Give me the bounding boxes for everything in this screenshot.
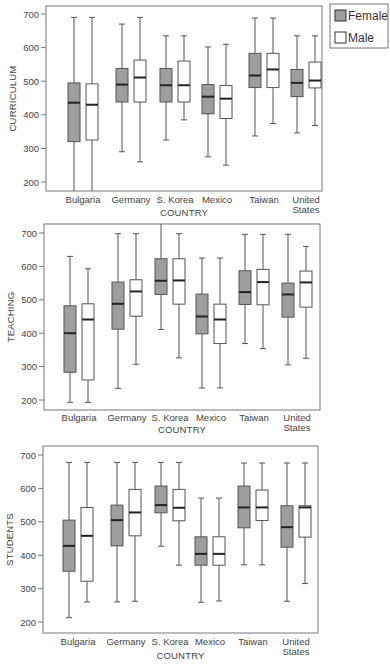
box-male	[213, 498, 225, 601]
y-tick-label: 700	[23, 9, 39, 20]
box-male	[173, 462, 185, 565]
iqr-box	[68, 83, 80, 142]
box-male	[81, 462, 93, 602]
x-category-label: Mexico	[202, 194, 232, 205]
x-category-label: Mexico	[196, 412, 226, 423]
x-category-label: Bulgaria	[61, 636, 97, 647]
box-male	[220, 44, 232, 165]
legend-label-female: Female	[348, 9, 388, 23]
box-male	[178, 36, 190, 120]
plot-area	[64, 223, 312, 402]
box-plot-figure: 200300400500600700CURRICULUMCOUNTRYBulga…	[0, 0, 390, 672]
panel-students: 200300400500600700STUDENTSCOUNTRYBulgari…	[4, 446, 318, 661]
plot-area	[68, 17, 321, 192]
iqr-box	[173, 259, 185, 304]
box-female	[155, 462, 167, 546]
x-category-label: S. Korea	[152, 636, 190, 647]
box-male	[129, 462, 141, 601]
box-male	[134, 17, 146, 161]
iqr-box	[256, 490, 268, 520]
iqr-box	[282, 283, 294, 317]
iqr-box	[214, 304, 226, 343]
box-female	[195, 498, 207, 602]
iqr-box	[155, 486, 167, 513]
x-category-label: States	[293, 204, 320, 215]
legend-swatch-male	[335, 32, 346, 43]
iqr-box	[299, 506, 311, 537]
y-tick-label: 200	[23, 177, 39, 188]
iqr-box	[249, 53, 261, 87]
box-male	[214, 258, 226, 388]
x-category-label: Taiwan	[238, 636, 268, 647]
box-female	[111, 462, 123, 602]
y-tick-label: 300	[20, 583, 36, 594]
x-axis-title: COUNTRY	[158, 424, 207, 435]
box-female	[249, 18, 261, 136]
box-female	[116, 24, 128, 152]
y-tick-label: 300	[21, 361, 37, 372]
legend: Female Male	[330, 4, 388, 48]
y-tick-label: 500	[20, 516, 36, 527]
y-tick-label: 400	[23, 109, 39, 120]
y-axis-title: CURRICULUM	[7, 66, 18, 132]
iqr-box	[202, 85, 214, 114]
x-category-label: States	[284, 422, 311, 433]
y-tick-label: 600	[23, 42, 39, 53]
box-male	[86, 17, 98, 192]
box-female	[64, 256, 76, 402]
y-tick-label: 400	[20, 550, 36, 561]
legend-label-male: Male	[348, 31, 374, 45]
box-male	[82, 269, 94, 403]
box-female	[282, 234, 294, 365]
iqr-box	[300, 271, 312, 307]
x-axis-title: COUNTRY	[160, 207, 209, 218]
x-axis-title: COUNTRY	[156, 650, 205, 661]
y-axis-title: STUDENTS	[4, 513, 15, 566]
iqr-box	[239, 271, 251, 305]
y-tick-label: 700	[21, 228, 37, 239]
box-female	[63, 462, 75, 617]
y-tick-label: 600	[21, 261, 37, 272]
box-male	[267, 18, 279, 124]
x-category-label: Taiwan	[249, 194, 279, 205]
x-category-label: Taiwan	[239, 412, 269, 423]
box-male	[309, 36, 321, 126]
panel-curriculum: 200300400500600700CURRICULUMCOUNTRYBulga…	[7, 6, 322, 218]
x-category-label: S. Korea	[152, 412, 190, 423]
iqr-box	[220, 86, 232, 119]
iqr-box	[195, 537, 207, 565]
iqr-box	[173, 489, 185, 520]
x-category-label: Mexico	[195, 636, 225, 647]
y-tick-label: 200	[20, 617, 36, 628]
x-category-label: Bulgaria	[62, 412, 98, 423]
box-female	[238, 463, 250, 565]
y-tick-label: 500	[21, 294, 37, 305]
iqr-box	[257, 269, 269, 304]
box-male	[130, 234, 142, 365]
box-female	[291, 36, 303, 133]
box-male	[257, 234, 269, 348]
x-category-label: Germany	[106, 636, 145, 647]
iqr-box	[82, 304, 94, 380]
x-category-label: Germany	[107, 412, 146, 423]
box-female	[281, 463, 293, 601]
iqr-box	[267, 53, 279, 87]
box-female	[202, 47, 214, 157]
plot-area	[63, 462, 311, 617]
y-axis-title: TEACHING	[5, 292, 16, 343]
iqr-box	[155, 259, 167, 295]
iqr-box	[309, 62, 321, 88]
box-female	[239, 234, 251, 343]
box-female	[68, 17, 80, 192]
box-female	[155, 223, 167, 330]
x-category-label: S. Korea	[157, 194, 195, 205]
iqr-box	[196, 294, 208, 334]
y-tick-label: 500	[23, 76, 39, 87]
box-female	[196, 258, 208, 388]
y-tick-label: 400	[21, 328, 37, 339]
iqr-box	[134, 60, 146, 102]
iqr-box	[64, 306, 76, 372]
box-female	[160, 36, 172, 140]
box-male	[300, 246, 312, 358]
iqr-box	[112, 282, 124, 329]
